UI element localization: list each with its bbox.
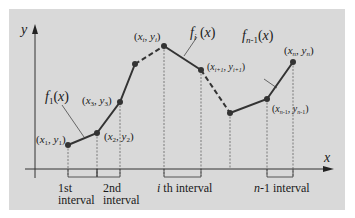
point-n	[290, 59, 296, 65]
label-point-i: (xi, yi)	[134, 30, 161, 44]
point-2	[94, 130, 100, 136]
label-point-n: (xn, yn)	[284, 44, 314, 58]
x-axis-label: x	[323, 150, 331, 165]
point-3	[117, 99, 123, 105]
point-1	[65, 142, 71, 148]
point-n-minus-1	[264, 96, 270, 102]
point-intermediate	[132, 61, 138, 67]
interval-label-n-minus-1: n-1 interval	[254, 181, 310, 195]
point-i-plus-1	[198, 67, 204, 73]
label-point-1: (x1, y1)	[36, 133, 66, 147]
drop-lines	[68, 46, 293, 176]
label-f1: f1(x)	[45, 89, 69, 106]
label-point-i-plus-1: (xi+1, yi+1)	[207, 61, 245, 73]
point-i	[161, 43, 167, 49]
interval-label-2nd: 2nd interval	[103, 181, 140, 207]
y-axis-label: y	[19, 22, 28, 37]
point-intermediate-2	[227, 110, 233, 116]
label-point-2: (x2, y2)	[104, 130, 134, 144]
leader-lines	[62, 37, 277, 137]
x-axis-arrow-icon	[323, 166, 334, 172]
interval-label-1st: 1st interval	[58, 181, 95, 207]
y-axis-arrow-icon	[32, 24, 38, 34]
label-point-n-minus-1: (xn-1, yn-1)	[272, 103, 309, 115]
interval-brackets	[68, 169, 293, 177]
label-point-3: (x3, y3)	[82, 94, 112, 108]
label-fi: fi (x)	[190, 25, 216, 42]
interval-label-ith: i th interval	[157, 181, 213, 195]
piecewise-linear-diagram: y x (x1, y1) (x2, y2) (x3, y3) (xi, yi) …	[0, 0, 355, 218]
label-fn-minus-1: fn-1(x)	[242, 28, 274, 45]
